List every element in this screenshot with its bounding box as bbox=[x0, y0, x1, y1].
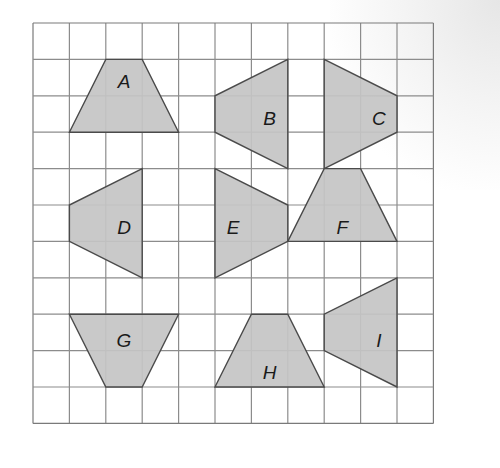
shape-label: C bbox=[372, 108, 386, 129]
shape-label: A bbox=[117, 71, 131, 92]
shape-label: H bbox=[263, 362, 277, 383]
diagram-canvas: ABCDEFGHI bbox=[0, 0, 500, 468]
shapes: ABCDEFGHI bbox=[69, 59, 397, 387]
shape-label: D bbox=[117, 217, 131, 238]
shape-label: I bbox=[376, 330, 382, 351]
shape-label: F bbox=[337, 217, 350, 238]
grid-figure: ABCDEFGHI bbox=[0, 0, 500, 468]
shape-label: G bbox=[117, 330, 132, 351]
shape-label: E bbox=[227, 217, 240, 238]
shape-label: B bbox=[263, 108, 276, 129]
